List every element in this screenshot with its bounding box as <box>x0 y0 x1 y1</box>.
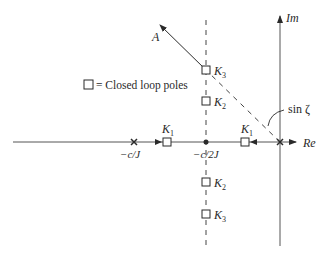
imaginary-axis: Im <box>280 11 299 246</box>
k1-right-label: K1 <box>240 122 253 138</box>
neg-c-J-label: −c/J <box>120 148 141 160</box>
legend-square-icon <box>84 80 93 89</box>
root-locus-diagram: Im Re A sin ζ −c/J −c/2J K1 <box>0 0 327 258</box>
sin-zeta-label: sin ζ <box>288 102 310 116</box>
imaginary-axis-label: Im <box>285 11 299 25</box>
figure-caption-cropped <box>18 249 327 258</box>
closed-loop-pole-k2-lower: K2 <box>202 176 226 192</box>
k2-lower-label: K2 <box>213 176 226 192</box>
ray-a-label: A <box>151 30 160 44</box>
breakaway-point: −c/2J <box>193 140 220 161</box>
legend-text: = Closed loop poles <box>96 79 188 92</box>
locus-direction-arrow-right <box>250 139 257 145</box>
neg-c-2J-label: −c/2J <box>193 148 220 160</box>
k2-upper-label: K2 <box>213 95 226 111</box>
closed-loop-pole-k3-upper: K3 <box>202 64 226 80</box>
locus-direction-arrow-left <box>155 139 162 145</box>
closed-loop-pole-k2-upper: K2 <box>202 95 226 111</box>
ray-a: A <box>151 25 206 70</box>
k3-upper-label: K3 <box>213 64 226 80</box>
legend: = Closed loop poles <box>84 79 188 92</box>
k1-left-label: K1 <box>161 122 174 138</box>
sin-zeta-annotation: sin ζ <box>268 102 310 126</box>
k3-lower-label: K3 <box>213 208 226 224</box>
real-axis-label: Re <box>302 136 316 150</box>
